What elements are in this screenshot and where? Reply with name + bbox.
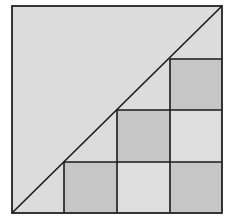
cell-dark <box>170 162 222 213</box>
cell-light <box>117 162 170 213</box>
cell-dark <box>64 162 117 213</box>
cell-dark <box>117 110 170 162</box>
staircase-diagram <box>0 0 232 222</box>
cell-dark <box>170 59 222 110</box>
cell-light <box>170 110 222 162</box>
